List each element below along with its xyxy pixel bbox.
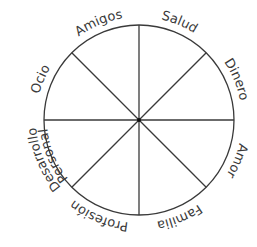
segment-label-profesion: Profesión xyxy=(67,197,129,234)
segment-label-familia: Familia xyxy=(156,202,205,234)
segment-label-salud: Salud xyxy=(160,8,200,36)
wheel-diagram: Salud Dinero Amor Familia Profesión Desa… xyxy=(0,0,257,247)
segment-label-amor: Amor xyxy=(223,142,251,181)
segment-label-dinero: Dinero xyxy=(221,55,252,101)
wheel-center xyxy=(137,118,141,122)
